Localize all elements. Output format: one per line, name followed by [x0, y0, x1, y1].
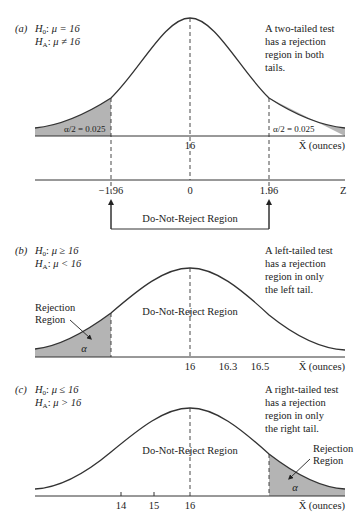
x-axis-label-c: X̄ (ounces) — [299, 500, 346, 512]
panel-c-note: A right-tailed test has a rejection regi… — [265, 384, 339, 434]
x-tick-c-0: 14 — [116, 500, 127, 511]
x-tick-b-2: 16.5 — [251, 361, 269, 372]
svg-text:has a rejection: has a rejection — [265, 36, 326, 47]
panel-b-ha: HA: μ < 16 — [34, 258, 82, 271]
panel-b: (b) H0: μ ≥ 16 HA: μ < 16 A left-tailed … — [15, 245, 346, 373]
rejection-label-c-line2: Region — [313, 455, 344, 466]
z-tick-pos: 1.96 — [260, 185, 278, 196]
svg-text:the left tail.: the left tail. — [265, 284, 313, 295]
panel-c-h0: H0: μ ≤ 16 — [34, 384, 79, 397]
z-tick-neg: −1.96 — [99, 185, 123, 196]
svg-text:the right tail.: the right tail. — [265, 423, 319, 434]
svg-text:A left-tailed test: A left-tailed test — [265, 245, 333, 256]
panel-b-tag: (b) — [15, 245, 28, 257]
svg-text:region in only: region in only — [265, 271, 325, 282]
rejection-label-b-line2: Region — [35, 314, 66, 325]
z-axis-label: Z — [340, 185, 346, 196]
hypothesis-test-diagram: (a) H0: μ = 16 HA: μ ≠ 16 A two-tailed t… — [0, 0, 364, 530]
svg-text:has a rejection: has a rejection — [265, 397, 326, 408]
x-tick-b-0: 16 — [185, 361, 196, 372]
svg-text:A right-tailed test: A right-tailed test — [265, 384, 339, 395]
x-axis-label-a: X̄ (ounces) — [299, 140, 346, 152]
svg-text:A two-tailed test: A two-tailed test — [265, 23, 334, 34]
left-tail-label: α/2 = 0.025 — [64, 124, 106, 134]
alpha-c: α — [292, 482, 298, 493]
panel-c: (c) H0: μ ≤ 16 HA: μ > 16 A right-tailed… — [15, 384, 354, 512]
x-axis-label-b: X̄ (ounces) — [299, 361, 346, 373]
svg-text:tails.: tails. — [265, 62, 285, 73]
dnr-label-c: Do-Not-Reject Region — [142, 445, 238, 456]
x-tick-c-2: 16 — [185, 500, 196, 511]
panel-b-note: A left-tailed test has a rejection regio… — [265, 245, 333, 295]
rejection-label-c-line1: Rejection — [313, 443, 354, 454]
panel-a-ha: HA: μ ≠ 16 — [34, 36, 81, 49]
dnr-bracket-label: Do-Not-Reject Region — [142, 213, 238, 224]
panel-a-h0: H0: μ = 16 — [34, 23, 80, 36]
panel-a-tag: (a) — [15, 23, 28, 35]
rejection-label-b-line1: Rejection — [35, 302, 76, 313]
panel-a-note: A two-tailed test has a rejection region… — [265, 23, 334, 73]
right-tail-label: α/2 = 0.025 — [273, 124, 315, 134]
panel-c-ha: HA: μ > 16 — [34, 397, 82, 410]
x-center-label: 16 — [185, 140, 196, 151]
alpha-b: α — [81, 343, 87, 354]
panel-b-h0: H0: μ ≥ 16 — [34, 245, 79, 258]
panel-a: (a) H0: μ = 16 HA: μ ≠ 16 A two-tailed t… — [15, 18, 346, 229]
panel-c-tag: (c) — [15, 384, 27, 396]
z-tick-zero: 0 — [187, 185, 192, 196]
svg-text:has a rejection: has a rejection — [265, 258, 326, 269]
svg-text:region in both: region in both — [265, 49, 325, 60]
x-tick-c-1: 15 — [149, 500, 160, 511]
svg-text:region in only: region in only — [265, 410, 325, 421]
x-tick-b-1: 16.3 — [219, 361, 237, 372]
dnr-label-b: Do-Not-Reject Region — [142, 306, 238, 317]
